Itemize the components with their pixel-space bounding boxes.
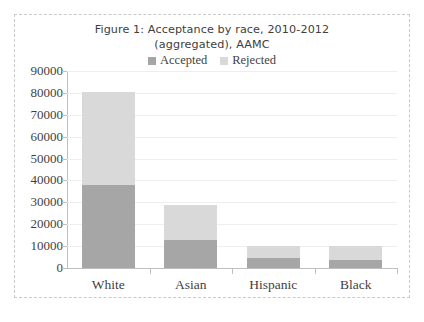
y-axis-tick-label: 40000 xyxy=(17,172,63,188)
legend-item-rejected[interactable]: Rejected xyxy=(220,53,276,68)
bar-segment-rejected[interactable] xyxy=(247,246,300,257)
bar-segment-accepted[interactable] xyxy=(247,258,300,269)
y-axis-tick-label: 70000 xyxy=(17,107,63,123)
bar-segment-accepted[interactable] xyxy=(82,185,135,268)
bar-segment-rejected[interactable] xyxy=(82,92,135,184)
y-axis-tick-mark xyxy=(62,93,67,94)
chart-legend: Accepted Rejected xyxy=(15,53,409,68)
figure-frame: Figure 1: Acceptance by race, 2010-2012 … xyxy=(14,14,410,298)
y-axis-tick-mark xyxy=(62,268,67,269)
y-axis-tick-label: 20000 xyxy=(17,216,63,232)
y-axis-tick-mark xyxy=(62,159,67,160)
y-axis-tick-label: 50000 xyxy=(17,151,63,167)
x-axis-tick-label: White xyxy=(92,277,125,293)
bar-stack[interactable] xyxy=(329,246,382,268)
x-axis-tick-mark xyxy=(232,269,233,274)
legend-swatch-accepted xyxy=(148,57,156,65)
bar-segment-rejected[interactable] xyxy=(164,205,217,241)
bar-segment-rejected[interactable] xyxy=(329,246,382,260)
chart-title: Figure 1: Acceptance by race, 2010-2012 … xyxy=(15,22,409,52)
y-axis-tick-mark xyxy=(62,115,67,116)
y-axis-tick-mark xyxy=(62,180,67,181)
legend-item-accepted[interactable]: Accepted xyxy=(148,53,207,68)
bar-segment-accepted[interactable] xyxy=(329,260,382,268)
x-axis-tick-label: Black xyxy=(340,277,372,293)
bars-container xyxy=(67,71,397,268)
y-axis-tick-mark xyxy=(62,137,67,138)
y-axis-labels: 9000080000700006000050000400003000020000… xyxy=(15,71,63,268)
y-axis-tick-mark xyxy=(62,202,67,203)
x-axis-tick-mark xyxy=(315,269,316,274)
y-axis-tick-label: 80000 xyxy=(17,85,63,101)
bar-stack[interactable] xyxy=(82,92,135,268)
y-axis-tick-mark xyxy=(62,224,67,225)
bar-segment-accepted[interactable] xyxy=(164,240,217,268)
y-axis-tick-label: 60000 xyxy=(17,129,63,145)
bar-stack[interactable] xyxy=(164,205,217,268)
legend-label-rejected: Rejected xyxy=(232,53,276,68)
x-axis-tick-mark xyxy=(397,269,398,274)
y-axis-tick-label: 90000 xyxy=(17,63,63,79)
x-axis-tick-mark xyxy=(150,269,151,274)
legend-label-accepted: Accepted xyxy=(160,53,207,68)
legend-swatch-rejected xyxy=(220,57,228,65)
y-axis-tick-label: 0 xyxy=(17,260,63,276)
plot-area xyxy=(67,71,397,268)
y-axis-tick-mark xyxy=(62,246,67,247)
x-axis-labels: WhiteAsianHispanicBlack xyxy=(67,277,398,299)
y-axis-tick-mark xyxy=(62,71,67,72)
bar-stack[interactable] xyxy=(247,246,300,268)
x-axis-tick-label: Asian xyxy=(175,277,207,293)
y-axis-tick-label: 30000 xyxy=(17,194,63,210)
x-axis-tick-label: Hispanic xyxy=(249,277,297,293)
y-axis-tick-label: 10000 xyxy=(17,238,63,254)
